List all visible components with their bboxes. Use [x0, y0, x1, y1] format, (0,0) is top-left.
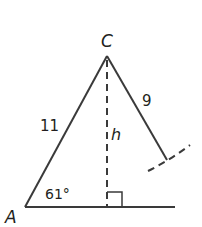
- side-c-9: [107, 56, 167, 160]
- side-ac: [25, 56, 107, 207]
- vertex-label-a: A: [4, 207, 17, 227]
- side-label-11: 11: [40, 117, 59, 135]
- triangle-diagram: C A 11 9 h 61°: [0, 0, 202, 227]
- right-angle-marker: [107, 192, 122, 207]
- swing-arc: [148, 145, 190, 171]
- altitude-label-h: h: [111, 125, 121, 144]
- vertex-label-c: C: [101, 31, 113, 51]
- side-label-9: 9: [142, 92, 152, 110]
- angle-label: 61°: [45, 186, 70, 202]
